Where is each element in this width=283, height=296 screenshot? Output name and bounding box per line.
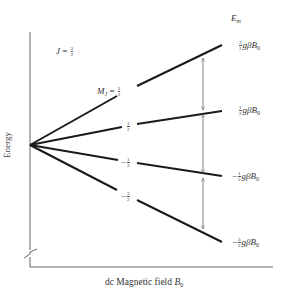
em-header: Em [231,14,241,24]
level-line-plus-3-2-b [137,45,222,86]
energy-label-minus-3-2: −32gβB0 [232,237,259,248]
mj-label-plus-3-2: MJ = 32 [97,86,121,97]
energy-label-plus-3-2: 32gβB0 [238,40,260,51]
j-fraction: 32 [71,46,74,57]
y-axis-label: Energy [2,132,12,158]
mj-label-plus-1-2: 12 [126,121,131,132]
mj-label-minus-3-2: −32 [121,191,131,202]
mj-label-minus-1-2: −12 [121,157,131,168]
level-line-minus-3-2-b [137,200,222,242]
x-axis-label-text: dc Magnetic field [105,277,174,287]
level-line-plus-1-2-b [137,111,222,124]
level-line-plus-3-2 [30,96,117,145]
energy-label-minus-1-2: −12gβB0 [232,171,259,182]
level-line-minus-1-2-b [137,163,222,176]
axis-break-icon [24,249,37,258]
em-sub: m [237,18,241,24]
x-axis-sub: 0 [180,282,183,288]
x-axis-label: dc Magnetic field B0 [105,278,183,288]
j-equals: = [62,46,67,56]
energy-label-plus-1-2: 12gβB0 [238,105,260,116]
level-line-plus-1-2 [30,127,122,145]
j-label: J = 32 [56,46,74,57]
j-symbol: J [56,46,60,56]
